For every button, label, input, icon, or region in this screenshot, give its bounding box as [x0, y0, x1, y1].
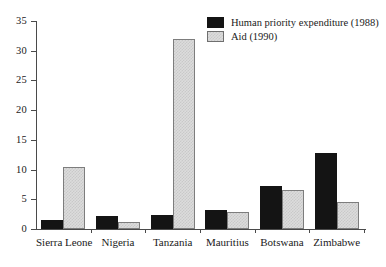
legend-label-2: Aid (1990) [231, 31, 277, 42]
legend-item-1: Human priority expenditure (1988) [207, 17, 379, 28]
y-tick-label-30: 30 [5, 46, 27, 57]
bar-chart: 05101520253035 Sierra LeoneNigeriaTanzan… [0, 0, 386, 267]
bar-mauritius-series-2 [227, 212, 249, 229]
y-tick-label-20: 20 [5, 105, 27, 116]
legend-label-1: Human priority expenditure (1988) [231, 17, 379, 28]
y-tick-label-10: 10 [5, 165, 27, 176]
legend-swatch-light [207, 31, 224, 42]
x-label-nigeria: Nigeria [91, 236, 146, 249]
y-tick-label-5: 5 [5, 194, 27, 205]
x-axis-line [36, 229, 366, 230]
x-tick-3 [200, 229, 201, 233]
bar-sierra-leone-series-1 [41, 220, 63, 229]
y-tick-label-0: 0 [5, 224, 27, 235]
x-label-botswana: Botswana [255, 236, 310, 249]
bar-botswana-series-1 [260, 186, 282, 229]
bar-tanzania-series-1 [151, 215, 173, 229]
legend-item-2: Aid (1990) [207, 31, 379, 42]
bar-zimbabwe-series-2 [337, 202, 359, 229]
x-tick-4 [255, 229, 256, 233]
legend-swatch-dark [207, 17, 224, 28]
y-tick-0 [31, 229, 36, 230]
bar-zimbabwe-series-1 [315, 153, 337, 229]
bar-sierra-leone-series-2 [63, 167, 85, 229]
bar-tanzania-series-2 [173, 39, 195, 229]
plot-area [36, 21, 364, 229]
chart-legend: Human priority expenditure (1988)Aid (19… [207, 17, 379, 45]
bar-mauritius-series-1 [205, 210, 227, 229]
bar-nigeria-series-2 [118, 222, 140, 229]
y-tick-label-25: 25 [5, 75, 27, 86]
x-label-mauritius: Mauritius [200, 236, 255, 249]
bar-nigeria-series-1 [96, 216, 118, 229]
x-tick-2 [145, 229, 146, 233]
bar-botswana-series-2 [282, 190, 304, 229]
y-tick-label-35: 35 [5, 16, 27, 27]
y-tick-label-15: 15 [5, 135, 27, 146]
x-label-sierra-leone: Sierra Leone [36, 236, 91, 249]
x-tick-5 [309, 229, 310, 233]
x-tick-6 [364, 229, 365, 233]
x-tick-1 [91, 229, 92, 233]
x-label-tanzania: Tanzania [145, 236, 200, 249]
x-label-zimbabwe: Zimbabwe [309, 236, 364, 249]
